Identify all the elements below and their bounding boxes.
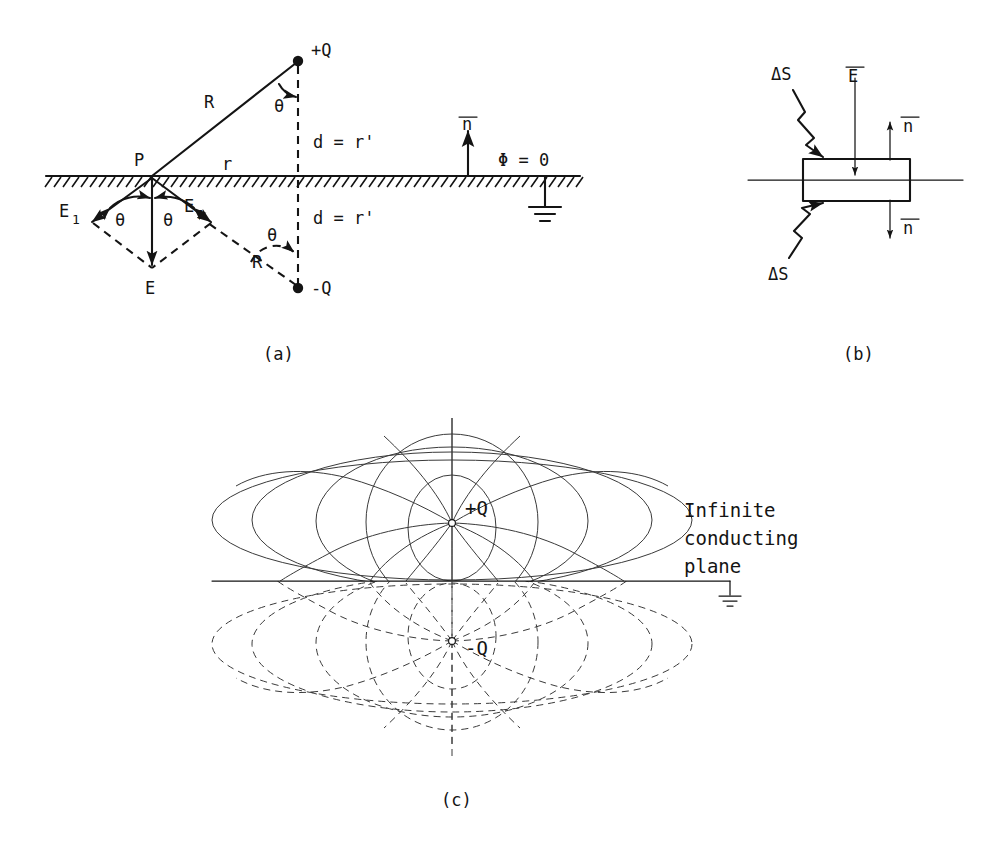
panel-a-label-depth-lower: d = r' <box>313 208 374 228</box>
panel-c-label-charge-negative: -Q <box>465 637 488 659</box>
panel-b-leader-bottom <box>789 203 823 258</box>
panel-a-label-R-upper: R <box>204 92 215 112</box>
panel-a-label-E1-left: E <box>59 201 69 221</box>
panel-b: ΔS ΔS E n n (b) <box>748 64 963 364</box>
panel-a-label-R-lower: R <box>252 252 263 272</box>
panel-a-label-theta-upper: θ <box>274 96 284 116</box>
panel-a-label-theta-right: θ <box>163 210 173 230</box>
panel-c-field-lines-negative <box>236 580 668 746</box>
panel-c-charge-positive-dot <box>449 520 456 527</box>
panel-c: +Q -Q Infinite conducting plane (c) <box>212 418 798 810</box>
panel-b-leader-top <box>793 90 823 157</box>
panel-a-label-E1-right: E <box>184 196 194 216</box>
panel-c-annotation-line1: Infinite <box>684 499 776 521</box>
panel-b-label-normal-top: n <box>903 116 913 136</box>
panel-a-label-charge-positive: +Q <box>311 40 331 60</box>
panel-a-label-theta-left: θ <box>115 210 125 230</box>
panel-a-label-E-total: E <box>145 278 155 298</box>
panel-c-label-charge-positive: +Q <box>465 497 488 519</box>
panel-a-label-point-p: P <box>134 150 144 170</box>
panel-a-label-E1-right-subscript: 1 <box>197 207 205 222</box>
panel-b-label-normal-bottom: n <box>903 218 913 238</box>
panel-b-label-field: E <box>848 66 858 86</box>
panel-a: +Q -Q P R R r θ θ θ θ d = r' d = r' E 1 … <box>45 40 583 364</box>
panel-b-label-surface-top: ΔS <box>771 64 791 84</box>
panel-a-caption: (a) <box>263 344 294 364</box>
panel-c-charge-negative-dot <box>449 638 456 645</box>
panel-a-label-potential: Φ = 0 <box>498 150 549 170</box>
physics-figure: +Q -Q P R R r θ θ θ θ d = r' d = r' E 1 … <box>0 0 990 847</box>
panel-a-label-charge-negative: -Q <box>311 278 331 298</box>
panel-b-caption: (b) <box>843 344 874 364</box>
panel-a-label-r: r <box>222 154 232 174</box>
panel-a-parallelogram-right <box>152 223 211 268</box>
panel-a-charge-positive-dot <box>293 56 303 66</box>
panel-a-label-E1-left-subscript: 1 <box>72 212 80 227</box>
panel-a-label-depth-upper: d = r' <box>313 132 374 152</box>
panel-a-theta-arc-left <box>110 196 150 208</box>
panel-c-ground-symbol <box>719 581 741 606</box>
panel-c-caption: (c) <box>441 790 472 810</box>
panel-c-annotation-line3: plane <box>684 555 741 577</box>
panel-a-label-theta-lower: θ <box>267 225 277 245</box>
figure-root: +Q -Q P R R r θ θ θ θ d = r' d = r' E 1 … <box>0 0 990 847</box>
panel-b-label-surface-bottom: ΔS <box>768 264 788 284</box>
panel-a-hatching <box>45 177 583 187</box>
panel-a-label-normal: n <box>462 114 472 134</box>
panel-a-charge-negative-dot <box>293 283 303 293</box>
panel-c-annotation-line2: conducting <box>684 527 798 549</box>
